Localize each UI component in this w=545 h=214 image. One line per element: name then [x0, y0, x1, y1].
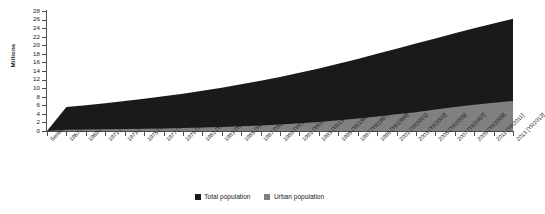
x-axis-tick	[47, 132, 48, 136]
x-axis-tick	[494, 132, 495, 136]
legend-item[interactable]: Urban population	[264, 193, 324, 200]
x-axis-tick	[474, 132, 475, 136]
x-axis-tick	[513, 132, 514, 136]
y-axis-tick	[42, 114, 46, 115]
chart-legend: Total populationUrban population	[0, 193, 519, 200]
y-axis-tick-label: 14	[24, 68, 40, 74]
y-axis-tick-label-holder: 26	[22, 20, 40, 21]
x-axis-tick	[241, 132, 242, 136]
y-axis-tick	[42, 28, 46, 29]
y-axis-tick-label: 10	[24, 85, 40, 91]
total-population-swatch	[195, 194, 201, 200]
y-axis-tick	[42, 45, 46, 46]
y-axis-tick-label: 26	[24, 16, 40, 22]
y-axis-tick	[42, 122, 46, 123]
y-axis-tick-label-holder: 20	[22, 45, 40, 46]
y-axis-tick-label: 6	[24, 102, 40, 108]
x-axis-tick	[183, 132, 184, 136]
y-axis-tick-label-holder: 16	[22, 62, 40, 63]
y-axis-tick-label: 18	[24, 51, 40, 57]
y-axis-tick	[42, 105, 46, 106]
x-axis-tick	[338, 132, 339, 136]
y-axis-tick-label-holder: 22	[22, 37, 40, 38]
y-axis-tick-label-holder: 4	[22, 114, 40, 115]
y-axis-tick-label-holder: 8	[22, 97, 40, 98]
y-axis-tick-label: 20	[24, 42, 40, 48]
x-axis-tick	[105, 132, 106, 136]
y-axis-tick-label: 4	[24, 111, 40, 117]
x-axis-tick	[299, 132, 300, 136]
y-axis-tick	[42, 88, 46, 89]
y-axis-tick-label-holder: 2	[22, 122, 40, 123]
y-axis-tick-label: 28	[24, 8, 40, 14]
x-axis-tick	[416, 132, 417, 136]
x-axis-tick	[397, 132, 398, 136]
y-axis-tick	[42, 54, 46, 55]
y-axis-tick-label: 22	[24, 34, 40, 40]
x-axis-tick	[125, 132, 126, 136]
x-axis-tick	[319, 132, 320, 136]
y-axis-tick-label-holder: 6	[22, 105, 40, 106]
x-axis-tick	[455, 132, 456, 136]
y-axis-tick	[42, 97, 46, 98]
x-axis-tick	[222, 132, 223, 136]
y-axis-tick-label-holder: 24	[22, 28, 40, 29]
x-axis-tick	[164, 132, 165, 136]
y-axis-tick-label-holder: 0	[22, 131, 40, 132]
y-axis-tick-label-holder: 14	[22, 71, 40, 72]
x-axis-tick	[66, 132, 67, 136]
y-axis-tick	[42, 80, 46, 81]
y-axis-tick-label: 8	[24, 94, 40, 100]
legend-item[interactable]: Total population	[195, 193, 251, 200]
y-axis-tick-label: 16	[24, 59, 40, 65]
y-axis-tick-label-holder: 12	[22, 80, 40, 81]
y-axis-tick	[42, 37, 46, 38]
y-axis-tick	[42, 71, 46, 72]
x-axis-tick	[202, 132, 203, 136]
legend-item-label: Total population	[204, 193, 250, 200]
y-axis-tick-label: 24	[24, 25, 40, 31]
urban-population-swatch	[264, 194, 270, 200]
y-axis-tick-label-holder: 10	[22, 88, 40, 89]
x-axis-tick	[358, 132, 359, 136]
y-axis-tick	[42, 11, 46, 12]
x-axis-tick	[280, 132, 281, 136]
y-axis-tick	[42, 62, 46, 63]
y-axis-tick-label-holder: 28	[22, 11, 40, 12]
y-axis-tick	[42, 20, 46, 21]
y-axis-title: Millions	[9, 26, 16, 86]
x-axis-tick	[261, 132, 262, 136]
y-axis-tick-label: 0	[24, 128, 40, 134]
y-axis-tick-label-holder: 18	[22, 54, 40, 55]
x-axis-tick	[377, 132, 378, 136]
x-axis-tick	[86, 132, 87, 136]
x-axis-tick	[435, 132, 436, 136]
y-axis-tick-label: 2	[24, 119, 40, 125]
y-axis-tick-label: 12	[24, 76, 40, 82]
x-axis-tick	[144, 132, 145, 136]
legend-item-label: Urban population	[274, 193, 324, 200]
